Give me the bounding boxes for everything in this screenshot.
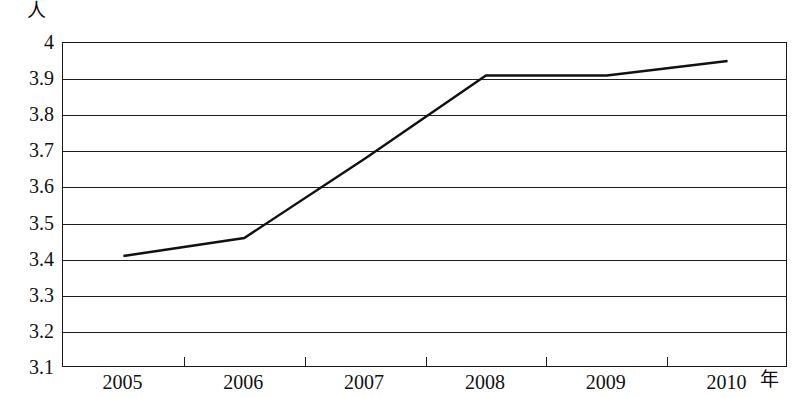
y-axis-tick-label: 3.5 (29, 213, 54, 233)
x-axis-tick-label: 2008 (465, 372, 505, 392)
plot-area (62, 42, 787, 367)
y-axis-tick-label: 3.4 (29, 249, 54, 269)
y-axis-tick-label: 3.7 (29, 140, 54, 160)
x-axis-tick-label: 2006 (223, 372, 263, 392)
x-axis-tick-label: 2009 (586, 372, 626, 392)
y-axis-unit-label: 人 (27, 1, 46, 20)
y-axis-tick-label: 3.1 (29, 357, 54, 377)
y-axis-tick-label: 3.8 (29, 104, 54, 124)
x-axis-tick-label: 2010 (707, 372, 747, 392)
x-axis-tick-label: 2007 (344, 372, 384, 392)
series-line (123, 61, 727, 256)
x-axis-unit-label: 年 (760, 370, 779, 389)
series-line-svg (63, 43, 786, 366)
line-chart: 人 年 43.93.83.73.63.53.43.33.23.1 2005200… (0, 0, 797, 397)
x-axis-tick-label: 2005 (102, 372, 142, 392)
y-axis-tick-label: 3.6 (29, 176, 54, 196)
y-axis-tick-label: 3.3 (29, 285, 54, 305)
y-axis-tick-label: 4 (44, 32, 54, 52)
y-axis-tick-label: 3.9 (29, 68, 54, 88)
y-axis-tick-label: 3.2 (29, 321, 54, 341)
